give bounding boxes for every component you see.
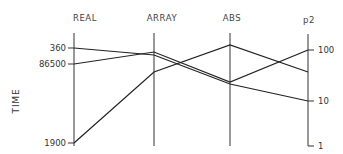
axis-title-abs: ABS [223,13,242,23]
tick-360: 360 [50,43,66,53]
series-lines [74,45,308,143]
series-1900 [74,45,308,143]
tick-10: 10 [318,96,329,106]
series-86500 [74,50,308,82]
axis-title-p2: p2 [303,15,315,25]
parallel-coordinates-chart: TIME REAL ARRAY ABS p2 360 86500 1900 10… [0,0,343,154]
tick-100: 100 [318,45,334,55]
axis-title-real: REAL [73,13,97,23]
tick-1900: 1900 [44,138,66,148]
axis-title-array: ARRAY [147,13,178,23]
tick-86500: 86500 [39,59,66,69]
axes [68,33,314,146]
y-axis-label: TIME [11,89,21,115]
tick-1: 1 [318,141,323,151]
series-360 [74,48,308,101]
